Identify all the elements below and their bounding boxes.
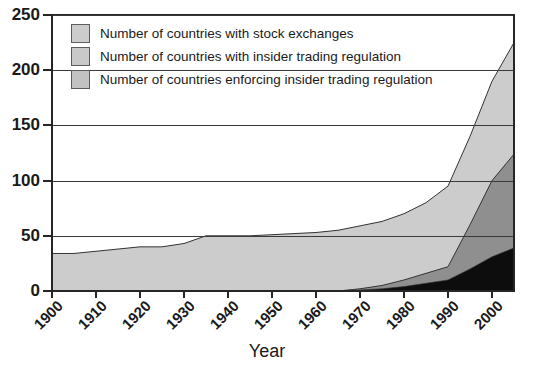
plot-top-border: [51, 14, 515, 15]
legend-item-enforcing-insider-trading-regulation: Number of countries enforcing insider tr…: [71, 69, 432, 89]
y-tick-label-0: 0: [0, 282, 40, 299]
legend-swatch-icon-1: [71, 47, 90, 66]
chart-legend: Number of countries with stock exchanges…: [71, 23, 432, 92]
x-tick-label-1990: 1990: [416, 297, 462, 343]
y-tick-label-200: 200: [0, 61, 40, 78]
x-tick-label-1940: 1940: [196, 297, 242, 343]
x-axis-title: Year: [0, 341, 534, 362]
x-tick-label-1950: 1950: [240, 297, 286, 343]
legend-label-1: Number of countries with insider trading…: [100, 49, 401, 64]
legend-swatch-icon-0: [71, 24, 90, 43]
y-axis-line: [51, 14, 53, 292]
y-tick-label-50: 50: [0, 227, 40, 244]
y-tick-label-150: 150: [0, 116, 40, 133]
legend-item-stock-exchanges: Number of countries with stock exchanges: [71, 23, 432, 43]
legend-label-2: Number of countries enforcing insider tr…: [100, 72, 432, 87]
x-tick-label-1930: 1930: [152, 297, 198, 343]
legend-label-0: Number of countries with stock exchanges: [100, 26, 354, 41]
stacked-area-chart: 050100150200250 190019101920193019401950…: [0, 0, 534, 372]
x-tick-label-1920: 1920: [108, 297, 154, 343]
legend-swatch-icon-2: [71, 70, 90, 89]
x-tick-label-1980: 1980: [372, 297, 418, 343]
y-tick-label-100: 100: [0, 172, 40, 189]
x-tick-label-1960: 1960: [284, 297, 330, 343]
y-tick-50: [43, 235, 52, 237]
plot-right-border: [513, 14, 515, 292]
legend-item-insider-trading-regulation: Number of countries with insider trading…: [71, 46, 432, 66]
x-tick-label-1910: 1910: [64, 297, 110, 343]
y-tick-200: [43, 69, 52, 71]
x-tick-label-2000: 2000: [460, 297, 506, 343]
gridline-y-100: [52, 181, 514, 182]
x-tick-label-1970: 1970: [328, 297, 374, 343]
y-tick-250: [43, 14, 52, 16]
gridline-y-50: [52, 236, 514, 237]
y-tick-150: [43, 124, 52, 126]
y-tick-label-250: 250: [0, 6, 40, 23]
gridline-y-150: [52, 125, 514, 126]
y-tick-100: [43, 180, 52, 182]
x-axis-line: [51, 290, 515, 292]
gridline-y-250: [52, 15, 514, 16]
